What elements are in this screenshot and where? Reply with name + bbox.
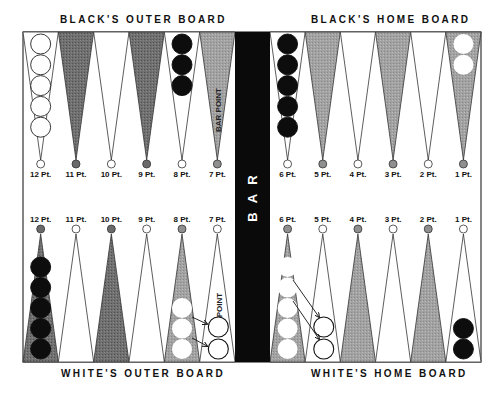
black-checker — [31, 298, 51, 318]
white-checker — [453, 34, 473, 54]
black-checker — [172, 34, 192, 54]
point-label: 11 Pt. — [66, 215, 87, 224]
black-checker — [278, 117, 298, 137]
point-tip-dot — [178, 225, 186, 233]
white-checker — [172, 298, 192, 318]
point-label: 2 Pt. — [420, 170, 437, 179]
backgammon-board: 12 Pt.11 Pt.10 Pt.9 Pt.8 Pt.7 Pt.6 Pt.5 … — [0, 0, 501, 394]
point-tip-dot — [37, 225, 45, 233]
white-checker — [31, 55, 51, 75]
black-checker — [172, 76, 192, 96]
black-checker — [31, 278, 51, 298]
black-checker — [278, 55, 298, 75]
point-label: 12 Pt. — [30, 215, 51, 224]
black-checker — [31, 339, 51, 359]
point-label: 1 Pt. — [455, 215, 472, 224]
point-tip-dot — [107, 225, 115, 233]
black-checker — [31, 319, 51, 339]
white-checker — [453, 55, 473, 75]
point-tip-dot — [319, 225, 327, 233]
point-tip-dot — [107, 160, 115, 168]
point-label: 9 Pt. — [138, 170, 155, 179]
point-label: 8 Pt. — [174, 215, 191, 224]
point-label: 12 Pt. — [30, 170, 51, 179]
point-label: 6 Pt. — [279, 170, 296, 179]
bar-point-annotation: BAR POINT — [214, 88, 223, 132]
black-checker — [278, 76, 298, 96]
point-label: 6 Pt. — [279, 215, 296, 224]
point-tip-dot — [213, 160, 221, 168]
white-checker — [31, 117, 51, 137]
point-annotation: POINT — [215, 293, 224, 318]
black-checker — [31, 257, 51, 277]
black-checker — [453, 339, 473, 359]
point-tip-dot — [354, 160, 362, 168]
point-tip-dot — [424, 160, 432, 168]
white-checker — [278, 257, 298, 277]
point-tip-dot — [354, 225, 362, 233]
white-checker — [31, 34, 51, 54]
point-tip-dot — [389, 160, 397, 168]
point-tip-dot — [284, 225, 292, 233]
point-tip-dot — [459, 225, 467, 233]
point-label: 11 Pt. — [66, 170, 87, 179]
point-label: 9 Pt. — [138, 215, 155, 224]
point-tip-dot — [143, 225, 151, 233]
white-checker — [278, 298, 298, 318]
point-label: 1 Pt. — [455, 170, 472, 179]
white-checker — [172, 319, 192, 339]
white-checker — [31, 76, 51, 96]
point-tip-dot — [37, 160, 45, 168]
point-label: 7 Pt. — [209, 215, 226, 224]
white-checker — [172, 339, 192, 359]
white-checker — [278, 278, 298, 298]
point-label: 2 Pt. — [420, 215, 437, 224]
point-label: 7 Pt. — [209, 170, 226, 179]
point-tip-dot — [143, 160, 151, 168]
point-label: 3 Pt. — [385, 170, 402, 179]
point-tip-dot — [389, 225, 397, 233]
black-checker — [172, 55, 192, 75]
point-label: 4 Pt. — [349, 170, 366, 179]
point-tip-dot — [284, 160, 292, 168]
point-tip-dot — [459, 160, 467, 168]
point-label: 10 Pt. — [101, 215, 122, 224]
white-checker — [31, 96, 51, 116]
point-label: 8 Pt. — [174, 170, 191, 179]
point-label: 4 Pt. — [349, 215, 366, 224]
point-label: 3 Pt. — [385, 215, 402, 224]
white-checker — [278, 339, 298, 359]
point-label: 10 Pt. — [101, 170, 122, 179]
black-checker — [278, 96, 298, 116]
point-tip-dot — [72, 160, 80, 168]
point-tip-dot — [424, 225, 432, 233]
point-label: 5 Pt. — [314, 170, 331, 179]
point-tip-dot — [319, 160, 327, 168]
point-tip-dot — [213, 225, 221, 233]
white-checker — [278, 319, 298, 339]
black-checker — [278, 34, 298, 54]
black-checker — [453, 319, 473, 339]
bar-label: B A R — [245, 172, 260, 221]
point-label: 5 Pt. — [314, 215, 331, 224]
point-tip-dot — [72, 225, 80, 233]
point-tip-dot — [178, 160, 186, 168]
